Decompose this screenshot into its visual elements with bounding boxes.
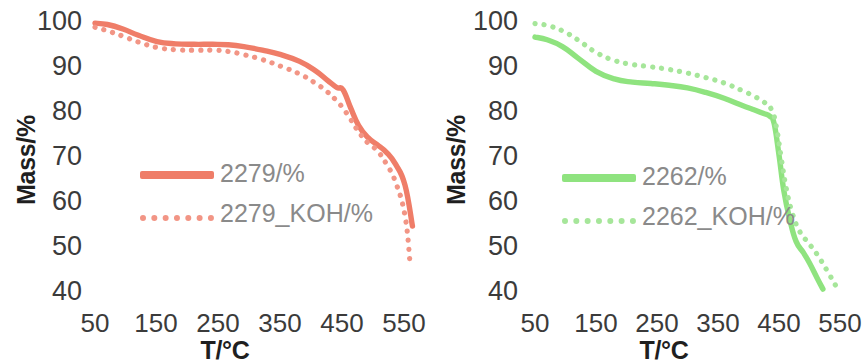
legend-swatch-solid bbox=[562, 174, 636, 182]
x-tick-label: 250 bbox=[622, 310, 692, 336]
legend-swatch-dotted bbox=[562, 218, 636, 224]
y-tick-label: 40 bbox=[20, 278, 82, 305]
y-tick-label: 100 bbox=[20, 8, 82, 35]
y-axis-title: Mass/% bbox=[12, 115, 41, 205]
x-tick-label: 150 bbox=[121, 310, 191, 336]
chart-panel-right: 100 90 80 70 60 50 40 Mass/% 50 150 250 … bbox=[434, 0, 868, 360]
y-tick-label: 50 bbox=[20, 233, 82, 260]
x-tick-label: 250 bbox=[183, 310, 253, 336]
y-tick-label: 100 bbox=[456, 8, 518, 35]
x-tick-label: 550 bbox=[805, 310, 868, 336]
legend-label: 2262/% bbox=[642, 162, 727, 191]
legend-label: 2279/% bbox=[220, 159, 305, 188]
x-tick-label: 150 bbox=[561, 310, 631, 336]
x-tick-label: 350 bbox=[683, 310, 753, 336]
legend-label: 2279_KOH/% bbox=[220, 199, 373, 228]
x-tick-label: 450 bbox=[744, 310, 814, 336]
x-tick-label: 350 bbox=[245, 310, 315, 336]
legend-swatch-dotted bbox=[140, 215, 214, 221]
series-line bbox=[95, 23, 412, 226]
chart-panel-left: 100 90 80 70 60 50 40 Mass/% 50 150 250 … bbox=[0, 0, 434, 360]
y-tick-label: 40 bbox=[456, 278, 518, 305]
tga-figure: 100 90 80 70 60 50 40 Mass/% 50 150 250 … bbox=[0, 0, 868, 360]
x-tick-label: 450 bbox=[307, 310, 377, 336]
x-axis-title: T/°C bbox=[180, 336, 270, 360]
x-tick-label: 50 bbox=[60, 310, 130, 336]
y-axis-title: Mass/% bbox=[442, 115, 471, 205]
y-tick-label: 50 bbox=[456, 233, 518, 260]
legend-swatch-solid bbox=[140, 171, 214, 179]
y-tick-label: 90 bbox=[20, 53, 82, 80]
legend-label: 2262_KOH/% bbox=[642, 202, 795, 231]
series-line bbox=[535, 24, 837, 288]
x-tick-label: 50 bbox=[500, 310, 570, 336]
x-axis-title: T/°C bbox=[619, 336, 709, 360]
y-tick-label: 90 bbox=[456, 53, 518, 80]
x-tick-label: 550 bbox=[369, 310, 439, 336]
